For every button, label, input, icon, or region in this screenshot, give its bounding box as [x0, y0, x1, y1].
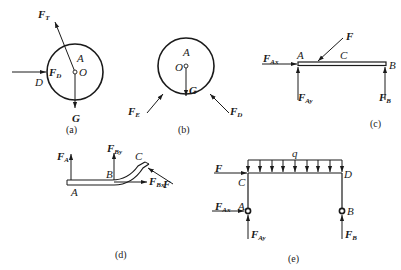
label-f: F — [345, 30, 354, 42]
panel-c: FAx A C F B FAy FB (c) — [262, 30, 396, 130]
caption-a: (a) — [66, 124, 77, 136]
label-c: C — [238, 176, 246, 188]
label-fax: FAx — [262, 52, 279, 66]
label-g: G — [72, 112, 80, 124]
label-b: B — [347, 205, 354, 217]
label-fd: FD — [229, 105, 242, 119]
center-pin-b — [184, 64, 188, 68]
label-b: B — [389, 59, 396, 71]
label-c: C — [135, 150, 143, 162]
label-fe: FE — [127, 105, 140, 119]
free-body-diagrams: FT A FD O D G (a) A O G FE FD (b) FAx A … — [0, 0, 401, 270]
force-e-arrow — [147, 94, 163, 113]
label-a: A — [76, 52, 84, 64]
label-a: A — [182, 46, 190, 58]
label-fax: FAx — [214, 200, 231, 214]
force-t-arrow — [55, 22, 75, 72]
distributed-load-arrows — [248, 160, 342, 172]
label-d: D — [343, 168, 352, 180]
center-pin-a — [73, 70, 77, 74]
caption-c: (c) — [370, 118, 381, 130]
label-g: G — [189, 84, 197, 96]
caption-d: (d) — [115, 249, 127, 261]
label-o: O — [79, 66, 87, 78]
label-fay: FAy — [297, 91, 313, 105]
label-fa: FA — [56, 150, 69, 164]
label-c: C — [340, 49, 348, 61]
label-a: A — [70, 186, 78, 198]
pin-a — [245, 208, 250, 213]
label-f: F — [214, 162, 223, 174]
label-b: B — [106, 168, 113, 180]
caption-b: (b) — [178, 124, 190, 136]
label-fb: FB — [344, 228, 357, 242]
label-fd: FD — [48, 66, 61, 80]
label-a: A — [296, 49, 304, 61]
panel-e: q F C D FAx A B FAy FB (e) — [212, 147, 357, 265]
label-ft: FT — [37, 8, 50, 22]
label-fby: FBy — [106, 142, 123, 156]
label-fb: FB — [378, 91, 391, 105]
panel-b: A O G FE FD (b) — [127, 38, 242, 136]
label-q: q — [292, 147, 298, 159]
label-d: D — [34, 76, 43, 88]
label-fay: FAy — [250, 228, 266, 242]
force-d-arrow — [210, 94, 229, 113]
panel-a: FT A FD O D G (a) — [12, 8, 103, 136]
caption-e: (e) — [288, 253, 299, 265]
beam-ab — [298, 62, 386, 66]
pin-b — [339, 208, 344, 213]
label-o: O — [175, 61, 183, 73]
rod-end-c — [145, 162, 149, 164]
label-a: A — [237, 200, 245, 212]
panel-d: FA FBy C F B FBx A (d) — [56, 142, 173, 261]
